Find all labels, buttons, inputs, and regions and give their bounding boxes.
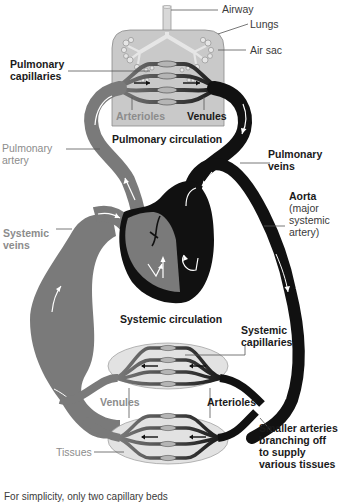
caption: For simplicity, only two capillary beds bbox=[4, 491, 168, 502]
label-aorta: Aorta bbox=[289, 190, 316, 202]
label-smaller-arteries: Smaller arteries branching off to supply… bbox=[259, 422, 338, 470]
label-air-sac: Air sac bbox=[250, 44, 282, 56]
label-pulmonary-circulation: Pulmonary circulation bbox=[112, 133, 222, 145]
label-systemic-capillaries: Systemic capillaries bbox=[241, 324, 292, 348]
label-airway: Airway bbox=[222, 3, 254, 15]
label-venules-pulmonary: Venules bbox=[187, 110, 227, 122]
label-systemic-veins: Systemic veins bbox=[3, 227, 49, 251]
airway-icon bbox=[163, 6, 171, 33]
tissue-bed-lower bbox=[108, 413, 228, 464]
label-tissues: Tissues bbox=[56, 446, 92, 458]
label-aorta-note: (major systemic artery) bbox=[289, 202, 330, 238]
tissue-bed-upper bbox=[108, 343, 228, 389]
label-pulmonary-veins: Pulmonary veins bbox=[268, 148, 322, 172]
label-arterioles-pulmonary: Arterioles bbox=[116, 110, 165, 122]
label-pulmonary-capillaries: Pulmonary capillaries bbox=[10, 58, 64, 82]
label-systemic-circulation: Systemic circulation bbox=[120, 313, 222, 325]
label-pulmonary-artery: Pulmonary artery bbox=[2, 142, 52, 166]
label-arterioles-systemic: Arterioles bbox=[207, 396, 256, 408]
label-venules-systemic: Venules bbox=[100, 396, 140, 408]
label-lungs: Lungs bbox=[250, 18, 279, 30]
